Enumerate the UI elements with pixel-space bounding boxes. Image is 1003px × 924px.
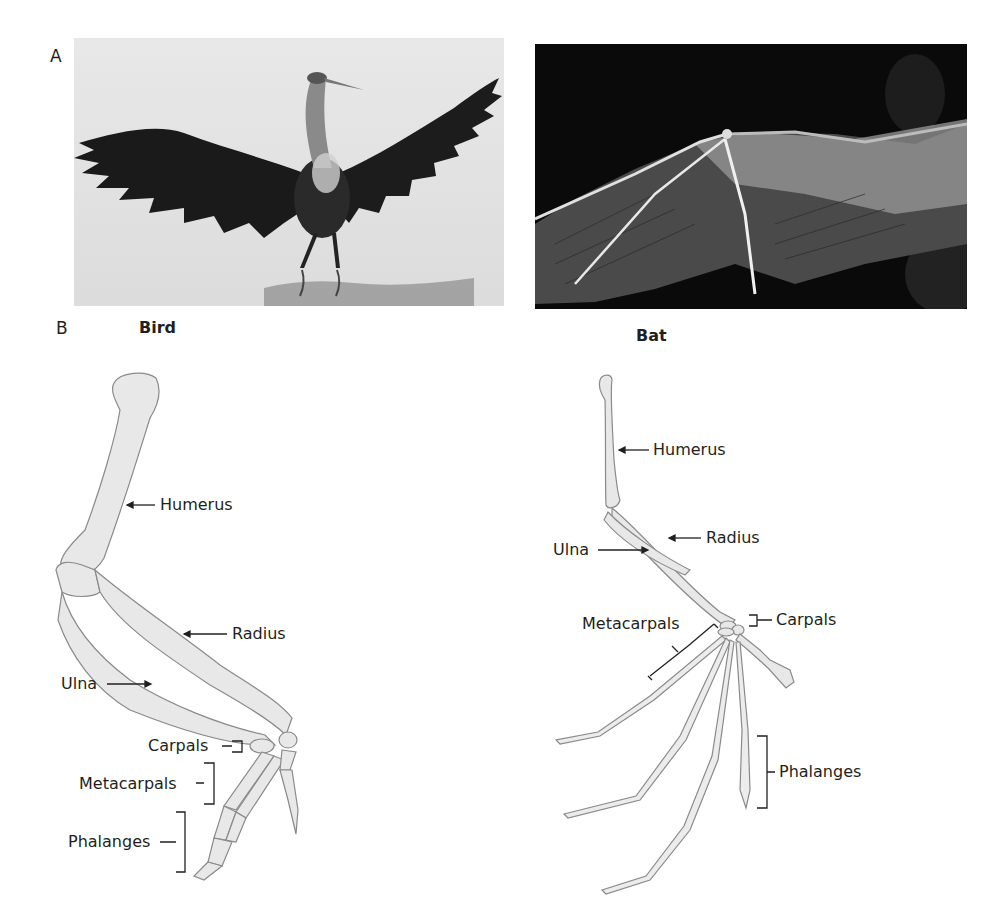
bird-metacarpals-label: Metacarpals xyxy=(79,776,177,792)
bat-phalanges-label: Phalanges xyxy=(779,764,861,780)
bird-ulna-label: Ulna xyxy=(61,676,97,692)
bird-humerus-label: Humerus xyxy=(160,497,233,513)
bird-phalanges-label: Phalanges xyxy=(68,834,150,850)
bat-ulna-label: Ulna xyxy=(553,542,589,558)
bat-metacarpals-label: Metacarpals xyxy=(582,616,680,632)
bat-carpals-label: Carpals xyxy=(776,612,836,628)
bat-radius-label: Radius xyxy=(706,530,760,546)
bird-carpals-label: Carpals xyxy=(148,738,208,754)
bird-radius-label: Radius xyxy=(232,626,286,642)
bat-humerus-label: Humerus xyxy=(653,442,726,458)
